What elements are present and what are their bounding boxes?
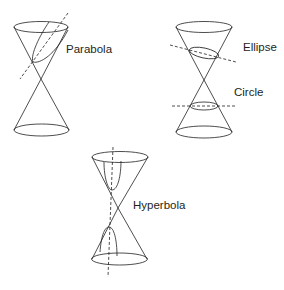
hyperbola-lower-branch — [100, 227, 117, 256]
hyperbola-cutting-plane — [108, 147, 113, 277]
parabola-cutting-plane — [20, 13, 68, 79]
ellipse-label: Ellipse — [243, 41, 277, 53]
circle-label: Circle — [234, 86, 263, 98]
ellipse-circle-double-cone — [170, 22, 236, 139]
conic-sections-diagram — [0, 0, 284, 290]
parabola-label: Parabola — [66, 43, 112, 55]
hyperbola-double-cone — [92, 147, 149, 277]
hyperbola-label: Hyperbola — [133, 199, 185, 211]
parabola-curve — [32, 22, 68, 62]
parabola-double-cone — [14, 13, 69, 136]
